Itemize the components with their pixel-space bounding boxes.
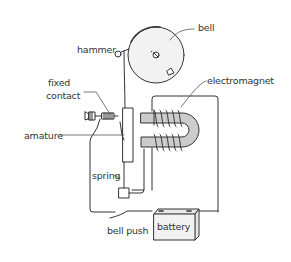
armature-icon <box>123 108 133 162</box>
label-spring: spring <box>92 170 120 181</box>
label-battery: battery <box>157 221 190 232</box>
label-fixed-contact-line2: contact <box>46 90 80 101</box>
bell-icon <box>128 27 184 83</box>
label-armature: amature <box>24 130 63 141</box>
spring-icon <box>119 162 144 198</box>
electromagnet-icon <box>132 96 218 212</box>
label-bell-push: bell push <box>107 225 148 236</box>
label-hammer: hammer <box>77 44 116 55</box>
fixed-contact-icon <box>85 112 118 120</box>
label-fixed-contact-line1: fixed <box>48 77 70 88</box>
label-bell: bell <box>198 22 214 33</box>
label-electromagnet: electromagnet <box>207 75 274 86</box>
electric-bell-diagram: bell hammer fixed contact electromagnet … <box>0 0 291 262</box>
hammer-icon <box>115 49 129 110</box>
